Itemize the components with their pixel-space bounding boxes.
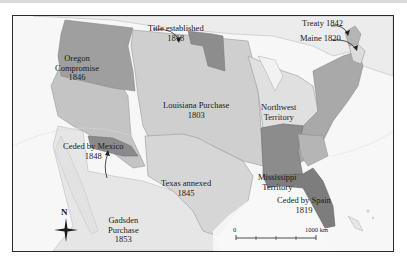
scale-end-label: 1000 km [305,226,328,233]
label-texas-annexed: Texas annexed 1845 [161,179,211,198]
label-oregon-compromise: Oregon Compromise 1846 [55,54,99,83]
label-maine-1820: Maine 1820 [300,34,341,44]
label-treaty-1842: Treaty 1842 [302,19,343,29]
compass-star-icon [53,217,79,243]
label-mississippi-territory: Mississippi Territory [258,173,297,192]
scale-start-label: 0 [233,226,236,233]
label-gadsden-purchase: Gadsden Purchase 1853 [108,216,139,245]
top-divider [0,0,407,3]
compass-rose: N [53,207,79,243]
label-louisiana-purchase: Louisiana Purchase 1803 [163,101,229,120]
label-title-established: Title established 1818 [148,24,204,43]
map-frame: Oregon Compromise 1846 Title established… [12,15,394,252]
label-ceded-by-mexico: Ceded by Mexico 1848 [63,142,123,161]
label-ceded-by-spain: Ceded by Spain 1819 [277,196,331,215]
label-northwest-territory: Northwest Territory [261,103,296,122]
compass-north-label: N [61,207,68,217]
